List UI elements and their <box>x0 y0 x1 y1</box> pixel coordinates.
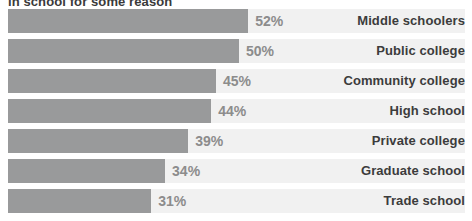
bar-category-label: High school <box>390 99 466 123</box>
bar-row: 50% Public college <box>0 39 472 63</box>
bar-category-label: Community college <box>343 69 465 93</box>
bar-value-label: 45% <box>223 69 251 93</box>
bar-value-label: 34% <box>172 159 200 183</box>
bar-category-label: Trade school <box>384 189 465 213</box>
bar-fill <box>8 39 239 63</box>
bar-category-label: Graduate school <box>361 159 465 183</box>
bar-value-label: 39% <box>195 129 223 153</box>
bar-row: 39% Private college <box>0 129 472 153</box>
bar-category-label: Middle schoolers <box>357 9 465 33</box>
bar-value-label: 52% <box>255 9 283 33</box>
bar-fill <box>8 129 188 153</box>
bar-row: 44% High school <box>0 99 472 123</box>
bar-value-label: 31% <box>158 189 186 213</box>
bar-row: 52% Middle schoolers <box>0 9 472 33</box>
bar-value-label: 50% <box>246 39 274 63</box>
bar-rows: 52% Middle schoolers 50% Public college … <box>0 9 472 219</box>
bar-row: 31% Trade school <box>0 189 472 213</box>
bar-value-label: 44% <box>218 99 246 123</box>
bar-row: 45% Community college <box>0 69 472 93</box>
bar-fill <box>8 69 216 93</box>
bar-fill <box>8 189 151 213</box>
bar-chart: in school for some reason 52% Middle sch… <box>0 0 472 221</box>
bar-row: 34% Graduate school <box>0 159 472 183</box>
bar-category-label: Public college <box>376 39 465 63</box>
bar-fill <box>8 99 211 123</box>
chart-title: in school for some reason <box>8 0 172 9</box>
bar-fill <box>8 9 248 33</box>
bar-fill <box>8 159 165 183</box>
bar-category-label: Private college <box>372 129 465 153</box>
